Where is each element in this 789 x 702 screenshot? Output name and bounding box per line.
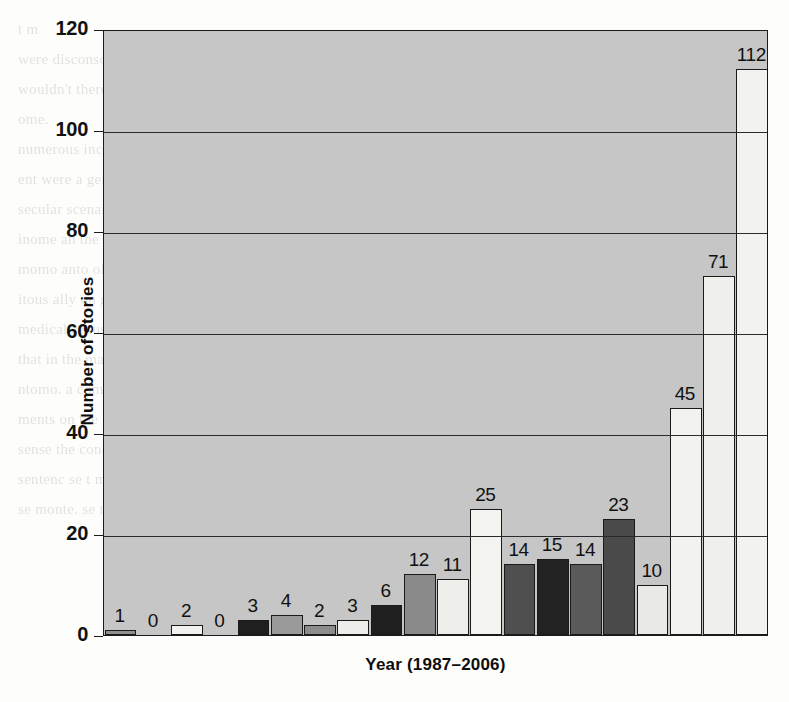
y-tick-label-80: 80: [66, 219, 88, 242]
y-tick-mark-40: [94, 434, 103, 435]
bar-2005: [703, 276, 735, 635]
y-tick-label-20: 20: [66, 522, 88, 545]
y-tick-mark-120: [94, 30, 103, 31]
bar-1994: [337, 620, 369, 635]
bar-value-label-1997: 11: [430, 554, 474, 576]
gridline-100: [104, 132, 767, 133]
gridline-20: [104, 536, 767, 537]
gridline-60: [104, 334, 767, 335]
bar-value-label-2004: 45: [663, 383, 707, 405]
bar-value-label-2003: 10: [630, 560, 674, 582]
bar-1998: [470, 509, 502, 635]
bar-series: [104, 31, 767, 635]
y-tick-mark-20: [94, 535, 103, 536]
y-tick-mark-0: [94, 636, 103, 637]
bar-2006: [736, 69, 768, 635]
bar-2004: [670, 408, 702, 635]
y-tick-mark-100: [94, 131, 103, 132]
bar-value-label-2001: 14: [563, 539, 607, 561]
bar-1993: [304, 625, 336, 635]
y-axis-title: Number of stories: [78, 277, 98, 426]
bar-1996: [404, 574, 436, 635]
y-tick-label-40: 40: [66, 421, 88, 444]
bar-chart-figure: Number of stories Year (1987–2006) 02040…: [0, 0, 789, 702]
y-tick-mark-60: [94, 333, 103, 334]
bar-1999: [504, 564, 536, 635]
bar-2003: [637, 585, 669, 636]
y-tick-mark-80: [94, 232, 103, 233]
bar-2000: [537, 559, 569, 635]
y-tick-label-100: 100: [56, 118, 88, 141]
bar-value-label-2006: 112: [729, 44, 773, 66]
bar-1997: [437, 579, 469, 635]
bar-value-label-2005: 71: [696, 251, 740, 273]
bar-value-label-2002: 23: [596, 494, 640, 516]
bar-value-label-1998: 25: [463, 484, 507, 506]
gridline-80: [104, 233, 767, 234]
plot-area: [103, 30, 768, 636]
bar-1995: [371, 605, 403, 635]
y-tick-label-120: 120: [56, 17, 88, 40]
bar-value-label-1995: 6: [364, 580, 408, 602]
y-tick-label-60: 60: [66, 320, 88, 343]
x-axis-title: Year (1987–2006): [103, 655, 768, 675]
y-tick-label-0: 0: [77, 623, 88, 646]
bar-2001: [570, 564, 602, 635]
bar-1991: [238, 620, 270, 635]
gridline-40: [104, 435, 767, 436]
